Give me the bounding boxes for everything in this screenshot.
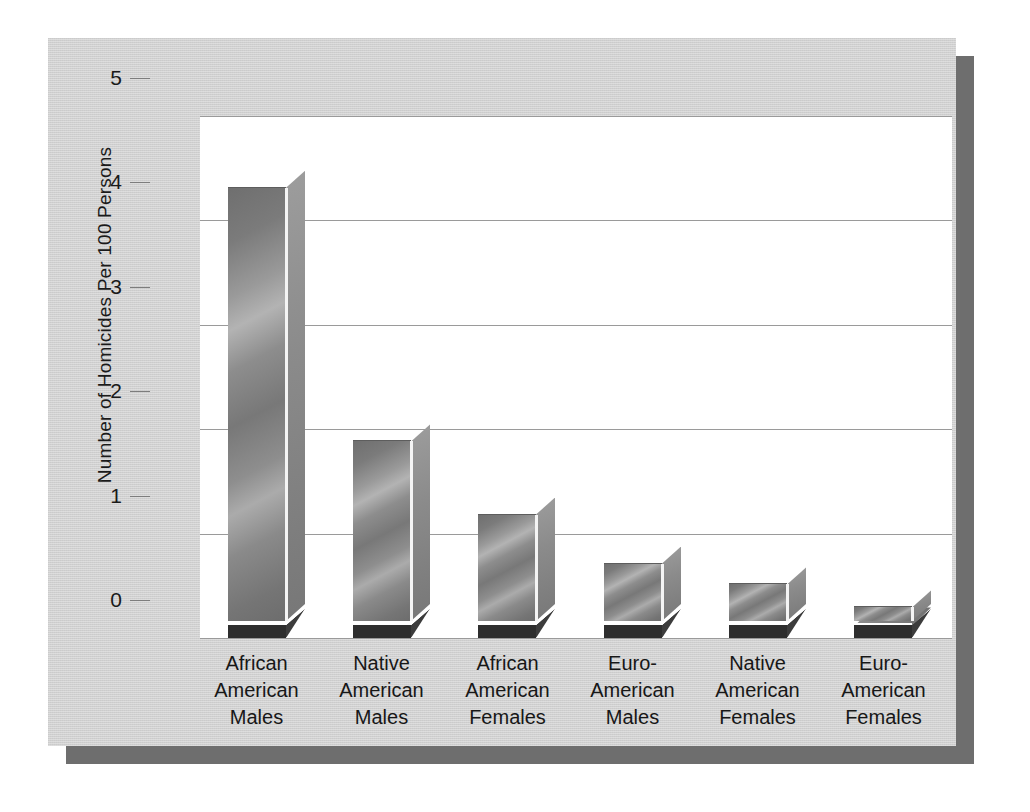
- category-label-line: American: [570, 677, 695, 704]
- y-tick-mark: [130, 78, 150, 79]
- x-axis-category-label: Euro-AmericanFemales: [821, 650, 946, 731]
- bar-edge-highlight: [661, 564, 664, 621]
- bar-base-front: [353, 623, 411, 638]
- bar-front-face: [478, 514, 536, 621]
- y-tick-mark: [130, 600, 150, 601]
- bar-base-front: [729, 623, 787, 638]
- y-tick-label: 0: [88, 589, 122, 610]
- category-label-line: Euro-: [821, 650, 946, 677]
- x-axis-category-label: AfricanAmericanFemales: [445, 650, 570, 731]
- bar-side-face: [662, 547, 681, 621]
- plot-area: [200, 116, 952, 638]
- bar-edge-highlight: [410, 441, 413, 621]
- bar-side-face: [286, 171, 305, 621]
- category-label-line: African: [445, 650, 570, 677]
- bar-front-face: [729, 583, 787, 621]
- bar-front-face: [604, 563, 662, 621]
- bar-base-front: [228, 623, 286, 638]
- bar-base-front: [854, 623, 912, 638]
- y-tick-label: 2: [88, 380, 122, 401]
- category-label-line: Native: [695, 650, 820, 677]
- bar-base-front: [604, 623, 662, 638]
- bar-front-face: [353, 440, 411, 621]
- bar-side-face: [787, 567, 806, 621]
- category-label-line: Females: [445, 704, 570, 731]
- category-label-line: American: [194, 677, 319, 704]
- x-axis-category-label: NativeAmericanMales: [319, 650, 444, 731]
- category-label-line: Males: [570, 704, 695, 731]
- bar-base-front: [478, 623, 536, 638]
- category-label-line: Males: [319, 704, 444, 731]
- bar: [729, 584, 787, 638]
- category-label-line: Native: [319, 650, 444, 677]
- bar: [854, 607, 912, 638]
- bar: [228, 188, 286, 638]
- category-label-line: American: [319, 677, 444, 704]
- bar-front-face: [854, 606, 912, 621]
- category-label-line: American: [821, 677, 946, 704]
- y-tick-label: 4: [88, 171, 122, 192]
- figure: Number of Homicides Per 100 Persons 5432…: [0, 0, 1030, 812]
- x-axis-category-labels: AfricanAmericanMalesNativeAmericanMalesA…: [200, 650, 952, 760]
- y-tick-label: 1: [88, 485, 122, 506]
- bar-edge-highlight: [786, 584, 789, 621]
- category-label-line: Males: [194, 704, 319, 731]
- bar-edge-highlight: [535, 515, 538, 621]
- x-axis-category-label: Euro-AmericanMales: [570, 650, 695, 731]
- y-tick-label: 3: [88, 276, 122, 297]
- chart-card: Number of Homicides Per 100 Persons 5432…: [48, 38, 956, 746]
- gridline: [200, 638, 952, 639]
- bar-edge-highlight: [285, 188, 288, 621]
- category-label-line: Females: [821, 704, 946, 731]
- bar-edge-highlight: [911, 607, 914, 621]
- bar: [353, 441, 411, 638]
- category-label-line: Females: [695, 704, 820, 731]
- y-tick-label: 5: [88, 67, 122, 88]
- category-label-line: American: [445, 677, 570, 704]
- bar-series: [200, 116, 952, 638]
- y-tick-mark: [130, 182, 150, 183]
- x-axis-category-label: NativeAmericanFemales: [695, 650, 820, 731]
- y-tick-mark: [130, 391, 150, 392]
- category-label-line: Euro-: [570, 650, 695, 677]
- bar-side-face: [536, 498, 555, 621]
- y-tick-mark: [130, 287, 150, 288]
- bar: [604, 564, 662, 638]
- y-tick-mark: [130, 496, 150, 497]
- bar-front-face: [228, 187, 286, 621]
- bar-side-face: [411, 424, 430, 621]
- bar: [478, 515, 536, 638]
- category-label-line: American: [695, 677, 820, 704]
- x-axis-category-label: AfricanAmericanMales: [194, 650, 319, 731]
- category-label-line: African: [194, 650, 319, 677]
